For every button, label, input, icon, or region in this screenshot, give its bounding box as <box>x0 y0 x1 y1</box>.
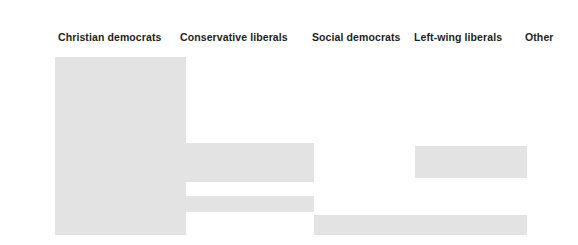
block-conservative-liberals-lower[interactable] <box>186 196 314 212</box>
mosaic-chart: Christian democrats Conservative liberal… <box>0 0 578 245</box>
block-christian-democrats[interactable] <box>55 57 186 235</box>
column-label-social-democrats: Social democrats <box>312 31 401 43</box>
column-label-conservative-liberals: Conservative liberals <box>180 31 288 43</box>
column-label-other: Other <box>525 31 554 43</box>
block-left-wing-liberals[interactable] <box>415 146 527 178</box>
block-social-democrats[interactable] <box>314 215 527 235</box>
column-label-christian-democrats: Christian democrats <box>58 31 161 43</box>
block-conservative-liberals-upper[interactable] <box>186 143 314 182</box>
column-label-left-wing-liberals: Left-wing liberals <box>414 31 502 43</box>
